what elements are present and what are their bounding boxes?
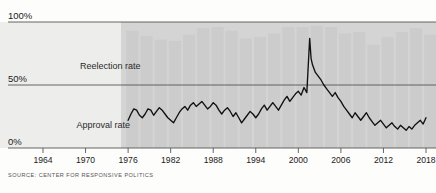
reelection-bar [197,28,209,148]
reelection-bar [240,38,252,148]
y-tick-label-100: 100% [8,10,33,21]
reelection-bar [268,33,280,148]
x-tick-label-1994: 1994 [246,155,265,165]
y-tick-label-50: 50% [8,73,28,84]
reelection-bar [339,33,351,148]
reelection-bar [367,45,379,148]
x-tick-label-2006: 2006 [331,155,350,165]
annotation-approval-rate: Approval rate [77,120,131,130]
reelection-bar [325,27,337,148]
chart-container: 100% 50% 0% 1964197019761982198819942000… [0,0,436,193]
reelection-bar [140,36,152,148]
reelection-bar [382,37,394,148]
reelection-bar [211,27,223,148]
x-tick-label-2018: 2018 [416,155,435,165]
source-note: SOURCE: CENTER FOR RESPONSIVE POLITICS [8,172,153,178]
reelection-bar [226,31,238,148]
x-tick-label-1964: 1964 [33,155,52,165]
reelection-bar [155,40,167,148]
x-tick-label-2000: 2000 [289,155,308,165]
reelection-bar [254,37,266,148]
reelection-bar [410,28,422,148]
reelection-bar [126,31,138,148]
reelection-bar [424,35,436,148]
reelection-vs-approval-chart: 100% 50% 0% 1964197019761982198819942000… [0,0,436,193]
reelection-bar [282,27,294,148]
x-tick-label-2012: 2012 [374,155,393,165]
reelection-bar [311,26,323,148]
reelection-bar [183,35,195,148]
x-tick-label-1982: 1982 [161,155,180,165]
x-tick-labels: 1964197019761982198819942000200620122018 [33,155,435,165]
x-tick-label-1988: 1988 [204,155,223,165]
x-axis [8,148,436,153]
annotation-reelection-rate: Reelection rate [80,61,141,71]
reelection-bar [353,32,365,148]
x-tick-label-1976: 1976 [119,155,138,165]
x-tick-label-1970: 1970 [76,155,95,165]
reelection-bar [169,41,181,148]
y-tick-label-0: 0% [8,136,22,147]
